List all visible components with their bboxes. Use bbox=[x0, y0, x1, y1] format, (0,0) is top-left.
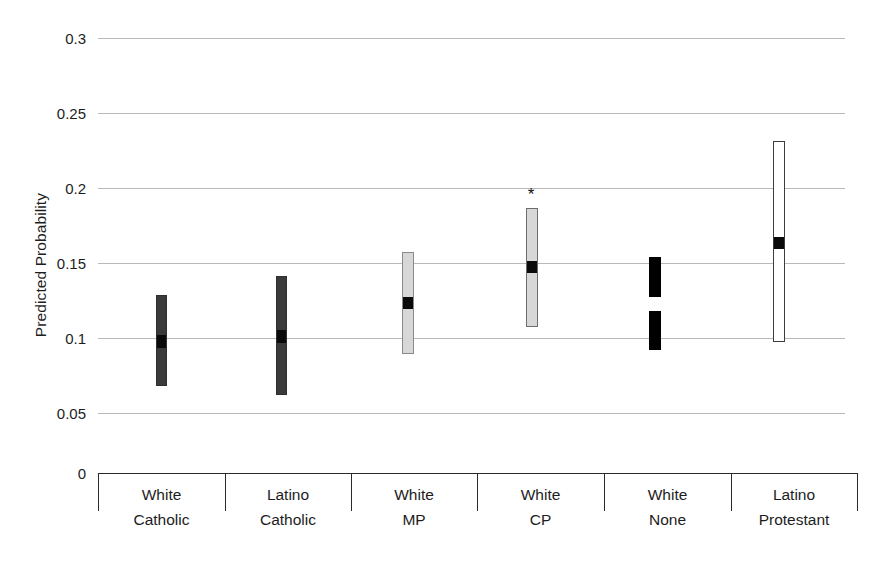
category-label-white-catholic: White Catholic bbox=[98, 482, 225, 532]
category-label-line2: Protestant bbox=[731, 507, 857, 532]
gridline-0.1 bbox=[98, 338, 845, 339]
y-tick-label-0: 0 bbox=[30, 465, 86, 482]
point-estimate-white-none bbox=[649, 297, 661, 311]
category-label-line1: White bbox=[648, 486, 688, 503]
y-tick-label-0.15: 0.15 bbox=[30, 256, 86, 271]
point-estimate-latino-catholic bbox=[277, 330, 286, 343]
ci-bar-latino-catholic bbox=[276, 276, 287, 395]
category-label-line2: Catholic bbox=[98, 507, 225, 532]
point-estimate-white-catholic bbox=[157, 335, 166, 348]
ci-bar-white-none bbox=[649, 257, 661, 350]
point-estimate-white-cp bbox=[527, 261, 537, 273]
y-tick-label-0.25: 0.25 bbox=[30, 106, 86, 121]
gridline-0.15 bbox=[98, 263, 845, 264]
point-estimate-white-mp bbox=[403, 297, 413, 309]
y-tick-label-0.3: 0.3 bbox=[30, 31, 86, 46]
category-label-latino-catholic: Latino Catholic bbox=[225, 482, 351, 532]
category-label-line2: Catholic bbox=[225, 507, 351, 532]
category-label-line1: White bbox=[142, 486, 182, 503]
category-label-white-none: White None bbox=[604, 482, 731, 532]
point-estimate-latino-protestant bbox=[774, 237, 784, 249]
category-label-white-cp: White CP bbox=[477, 482, 604, 532]
y-tick-label-0.05: 0.05 bbox=[30, 406, 86, 421]
y-tick-label-0.1: 0.1 bbox=[30, 331, 86, 346]
ci-bar-white-cp bbox=[526, 208, 538, 327]
category-label-white-mp: White MP bbox=[351, 482, 477, 532]
y-tick-label-0.2: 0.2 bbox=[30, 181, 86, 196]
chart-canvas: Predicted Probability 0.3 0.25 0.2 0.15 … bbox=[0, 0, 870, 574]
category-label-latino-protestant: Latino Protestant bbox=[731, 482, 857, 532]
ci-bar-white-mp bbox=[402, 252, 414, 354]
significance-marker-white-cp: * bbox=[520, 186, 542, 203]
category-label-line1: White bbox=[521, 486, 561, 503]
gridline-0.05 bbox=[98, 413, 845, 414]
category-label-line1: Latino bbox=[773, 486, 815, 503]
gridline-0.2 bbox=[98, 188, 845, 189]
category-axis-line bbox=[98, 473, 858, 474]
ci-bar-latino-protestant bbox=[773, 141, 785, 342]
category-label-line2: CP bbox=[477, 507, 604, 532]
category-label-line1: Latino bbox=[267, 486, 309, 503]
category-label-line2: None bbox=[604, 507, 731, 532]
category-label-line2: MP bbox=[351, 507, 477, 532]
ci-bar-white-catholic bbox=[156, 295, 167, 386]
category-axis-tick-right bbox=[857, 473, 858, 511]
gridline-0.25 bbox=[98, 113, 845, 114]
category-label-line1: White bbox=[394, 486, 434, 503]
gridline-0.3 bbox=[98, 38, 845, 39]
